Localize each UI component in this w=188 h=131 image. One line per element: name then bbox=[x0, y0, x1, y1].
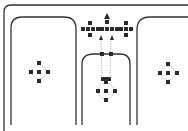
up-arrow-icon bbox=[110, 35, 114, 40]
up-arrow-icon bbox=[99, 35, 103, 40]
right-node-cluster[interactable] bbox=[158, 62, 179, 84]
top-node-bar[interactable] bbox=[81, 13, 133, 37]
right-panel bbox=[137, 17, 188, 125]
left-node-cluster[interactable] bbox=[29, 61, 50, 83]
diagram-canvas bbox=[0, 0, 188, 131]
connector-guides bbox=[99, 35, 114, 78]
center-node-cluster[interactable] bbox=[96, 77, 117, 102]
left-panel bbox=[11, 17, 76, 125]
up-arrow-icon bbox=[104, 13, 110, 19]
outer-frame bbox=[4, 5, 188, 131]
